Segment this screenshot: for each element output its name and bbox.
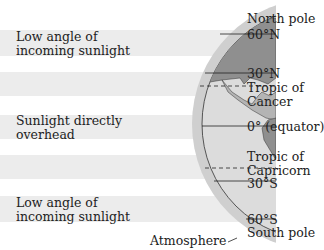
atmosphere-label: Atmosphere [150, 234, 226, 248]
band-3-label: Sunlight directly overhead [16, 114, 122, 142]
tropic-cancer-label: Tropic of Cancer [247, 81, 304, 109]
tropic-cancer-line-2: Cancer [247, 95, 304, 109]
band-3-line-2: overhead [16, 128, 122, 142]
tropic-capricorn-label: Tropic of Capricorn [247, 150, 311, 178]
lat-60n-label: 60°N [247, 28, 280, 42]
band-5-label: Low angle of incoming sunlight [16, 196, 130, 224]
equator-label: 0° (equator) [247, 120, 324, 134]
band-1-line-1: Low angle of [16, 30, 130, 44]
band-3-line-1: Sunlight directly [16, 114, 122, 128]
lat-30s-label: 30°S [247, 177, 278, 191]
band-5-line-2: incoming sunlight [16, 210, 130, 224]
band-1-line-2: incoming sunlight [16, 44, 130, 58]
tropic-cancer-line-1: Tropic of [247, 81, 304, 95]
atmosphere-leader [228, 238, 237, 242]
lat-30n-label: 30°N [247, 67, 280, 81]
tropic-capricorn-line-1: Tropic of [247, 150, 311, 164]
north-pole-label: North pole [247, 12, 315, 26]
south-pole-label: South pole [247, 226, 315, 240]
band-1-label: Low angle of incoming sunlight [16, 30, 130, 58]
band-5-line-1: Low angle of [16, 196, 130, 210]
